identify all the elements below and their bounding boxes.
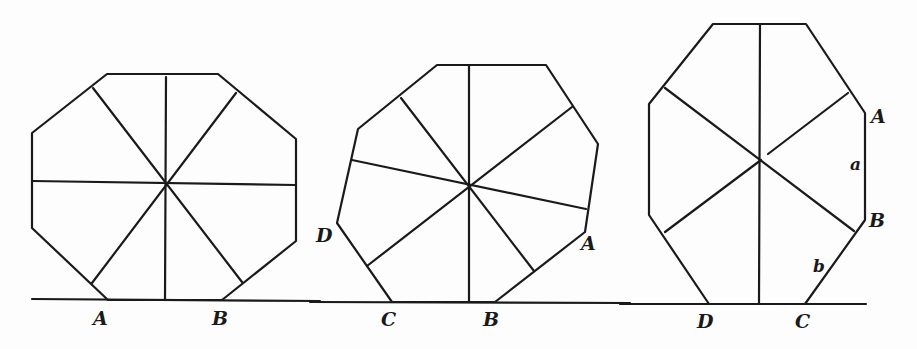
spoke xyxy=(665,160,761,232)
label-fig2-C: C xyxy=(381,308,396,330)
label-fig2-B: B xyxy=(482,308,499,330)
octagon-diagram: A B D A C B A a B b D C xyxy=(0,0,917,349)
label-fig2-A: A xyxy=(579,232,596,254)
label-fig3-a: a xyxy=(850,154,861,174)
octagon-figure-3 xyxy=(649,24,865,304)
label-fig3-C: C xyxy=(795,310,810,332)
label-fig3-A: A xyxy=(869,105,886,127)
label-fig2-D: D xyxy=(315,224,333,246)
spoke xyxy=(401,98,534,271)
label-fig1-A: A xyxy=(91,307,108,329)
spoke xyxy=(92,93,236,283)
label-fig3-b: b xyxy=(813,256,825,276)
diagram-canvas: A B D A C B A a B b D C xyxy=(0,0,917,349)
octagon-figure-1 xyxy=(32,74,296,300)
spoke xyxy=(759,24,760,304)
octagon-figure-2 xyxy=(337,65,598,302)
label-fig3-B: B xyxy=(868,209,885,231)
spoke xyxy=(768,93,848,154)
label-fig1-B: B xyxy=(211,307,228,329)
label-fig3-D: D xyxy=(696,310,714,332)
